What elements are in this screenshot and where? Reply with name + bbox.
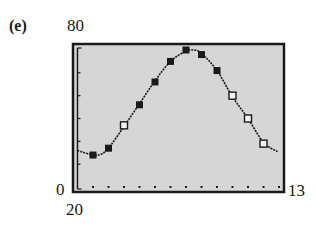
- filled-square-marker: [90, 152, 97, 159]
- filled-square-marker: [198, 51, 205, 58]
- filled-square-marker: [183, 47, 190, 54]
- open-square-marker: [229, 92, 236, 99]
- open-square-marker: [245, 115, 252, 122]
- open-square-marker: [260, 140, 267, 147]
- screen-frame: [73, 44, 284, 192]
- calculator-plot: [0, 0, 317, 233]
- filled-square-marker: [152, 78, 159, 85]
- filled-square-marker: [136, 101, 143, 108]
- open-square-marker: [121, 122, 128, 129]
- filled-square-marker: [167, 58, 174, 65]
- filled-square-marker: [105, 145, 112, 152]
- filled-square-marker: [214, 67, 221, 74]
